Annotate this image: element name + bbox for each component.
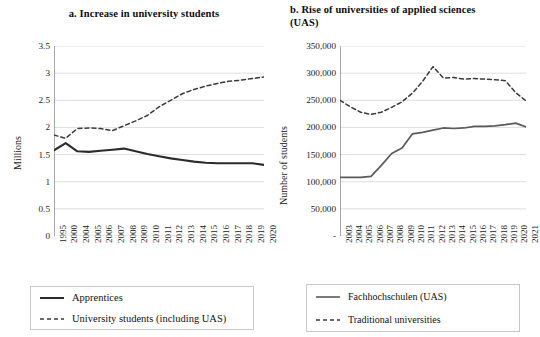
y-tick-label: 2 [16,122,50,132]
legend-label: Traditional universities [348,314,441,325]
data-series-line [54,77,264,138]
y-tick-label: 250,000 [286,95,336,105]
data-series-line [340,123,526,177]
x-tick-label: 2021 [530,225,540,243]
y-tick-label: 0 [16,231,50,241]
panel-a: a. Increase in university students Milli… [0,0,268,337]
legend-item: Fachhochschulen (UAS) [307,285,519,308]
legend-item: University students (including UAS) [31,308,253,329]
y-tick-label: 100,000 [286,177,336,187]
panel-b-plot-area [340,46,526,236]
legend-label: Apprentices [72,292,123,303]
y-tick-label: 0.5 [16,204,50,214]
panel-a-title: a. Increase in university students [34,8,254,21]
dashed-line-icon [315,315,341,325]
y-tick-label: 300,000 [286,68,336,78]
y-tick-label: 1 [16,177,50,187]
legend-label: University students (including UAS) [72,313,226,324]
dashed-line-icon [39,314,65,324]
panel-b: b. Rise of universities of applied scien… [268,0,536,337]
legend-item: Traditional universities [307,308,519,331]
panel-b-y-axis-label: Number of students [278,126,289,205]
y-tick-label: 3.5 [16,41,50,51]
y-tick-label: 350,000 [286,41,336,51]
solid-line-icon [315,292,341,302]
solid-line-icon [39,293,65,303]
legend-label: Fachhochschulen (UAS) [348,291,447,302]
panel-a-legend: Apprentices University students (includi… [30,286,254,330]
panel-b-legend: Fachhochschulen (UAS) Traditional univer… [306,284,520,332]
panel-b-title: b. Rise of universities of applied scien… [290,4,506,29]
y-tick-label: 3 [16,68,50,78]
panel-a-plot-area [54,46,264,236]
legend-item: Apprentices [31,287,253,308]
y-tick-label: 50,000 [286,204,336,214]
y-tick-label: 200,000 [286,122,336,132]
data-series-line [54,143,264,165]
y-tick-label: 1.5 [16,150,50,160]
y-tick-label: 2.5 [16,95,50,105]
y-tick-label: - [286,231,336,241]
data-series-line [340,67,526,115]
y-tick-label: 150,000 [286,150,336,160]
